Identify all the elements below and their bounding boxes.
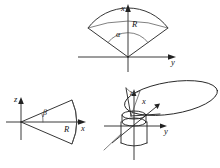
- panel-top-sector: x y R α: [78, 3, 176, 72]
- figure-sheet: x y R α z x R β: [0, 0, 220, 168]
- bl-radius-label: R: [63, 124, 70, 134]
- top-alpha-label: α: [116, 30, 121, 39]
- top-radius-label: R: [131, 19, 138, 29]
- bl-z-axis-label: z: [13, 94, 18, 104]
- bl-beta-label: β: [42, 108, 47, 117]
- top-y-axis-label: y: [170, 57, 175, 67]
- br-cone-mouth-ellipse: [122, 75, 220, 121]
- panel-bottom-right-perspective: z x y: [104, 75, 220, 160]
- br-support-line: [104, 134, 121, 150]
- bl-z-axis-arrowhead: [18, 97, 24, 104]
- diagram-canvas: x y R α z x R β: [0, 0, 220, 168]
- br-x-axis-label: x: [141, 96, 146, 106]
- br-z-axis-label: z: [129, 89, 133, 96]
- panel-bottom-left-sector: z x R β: [6, 94, 86, 144]
- top-x-axis-label: x: [120, 3, 125, 13]
- bl-x-axis-label: x: [80, 123, 85, 133]
- br-y-axis-label: y: [163, 126, 168, 136]
